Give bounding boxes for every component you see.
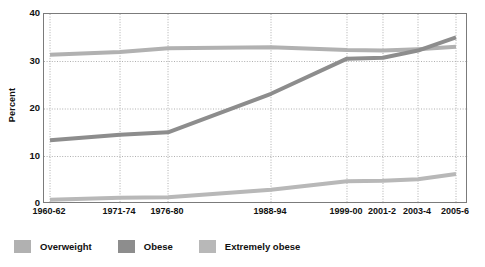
x-tick-label-1999-00: 1999-00 [329, 206, 362, 217]
legend-swatch-icon [14, 240, 31, 253]
legend-swatch-icon [199, 240, 216, 253]
legend-label: Overweight [40, 241, 92, 252]
x-tick-label-2005-6: 2005-6 [441, 206, 469, 217]
chart-legend: OverweightObeseExtremely obese [14, 240, 326, 253]
legend-item-overweight[interactable]: Overweight [14, 240, 92, 253]
x-tick-label-1971-74: 1971-74 [103, 206, 136, 217]
x-tick-label-1976-80: 1976-80 [151, 206, 184, 217]
legend-item-obese[interactable]: Obese [118, 240, 173, 253]
x-tick-label-2003-4: 2003-4 [403, 206, 431, 217]
x-axis-tick-labels: 1960-621971-741976-801988-941999-002001-… [0, 0, 485, 267]
legend-swatch-icon [118, 240, 135, 253]
x-tick-label-1988-94: 1988-94 [253, 206, 286, 217]
x-tick-label-2001-2: 2001-2 [368, 206, 396, 217]
legend-item-extremely-obese[interactable]: Extremely obese [199, 240, 301, 253]
chart-figure: Percent 403020100 1960-621971-741976-801… [0, 0, 485, 267]
legend-label: Extremely obese [225, 241, 301, 252]
legend-label: Obese [144, 241, 173, 252]
x-tick-label-1960-62: 1960-62 [33, 206, 66, 217]
